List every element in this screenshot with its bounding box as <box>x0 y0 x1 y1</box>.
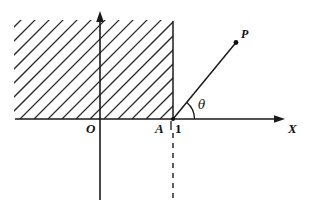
point-marker-p <box>234 40 239 45</box>
hatching-group <box>0 0 279 119</box>
figure-canvas <box>0 0 310 219</box>
x-axis-arrowhead-icon <box>274 115 285 123</box>
hatch-line <box>0 0 69 119</box>
hatch-line <box>160 0 279 119</box>
hatch-line <box>0 0 41 119</box>
label-point-a: A <box>155 122 164 135</box>
label-point-p: P <box>241 28 248 40</box>
hatch-line <box>0 0 83 119</box>
label-x-axis: X <box>288 122 297 135</box>
hatch-line <box>0 0 13 119</box>
label-angle-theta: θ <box>198 99 205 111</box>
label-origin-o: O <box>86 122 95 135</box>
hatch-line <box>0 0 55 119</box>
label-unit-tick-1: 1 <box>175 122 182 135</box>
hatch-line <box>0 0 97 119</box>
angle-arc-theta <box>187 102 195 119</box>
math-figure: O A 1 X P θ <box>0 0 310 219</box>
y-axis-arrowhead-icon <box>96 11 104 22</box>
